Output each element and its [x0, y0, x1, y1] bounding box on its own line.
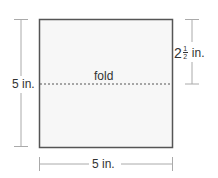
- right-dimension-label: 2 1 2 in.: [174, 45, 204, 60]
- left-dimension-label: 5 in.: [12, 78, 35, 90]
- unit-label: in.: [192, 47, 205, 59]
- fraction-numerator: 1: [183, 45, 187, 52]
- bottom-dimension-label: 5 in.: [92, 158, 115, 170]
- fraction-denominator: 2: [183, 53, 187, 60]
- fraction: 1 2: [183, 45, 188, 60]
- fold-label: fold: [94, 70, 113, 82]
- mixed-number-whole: 2: [174, 46, 182, 60]
